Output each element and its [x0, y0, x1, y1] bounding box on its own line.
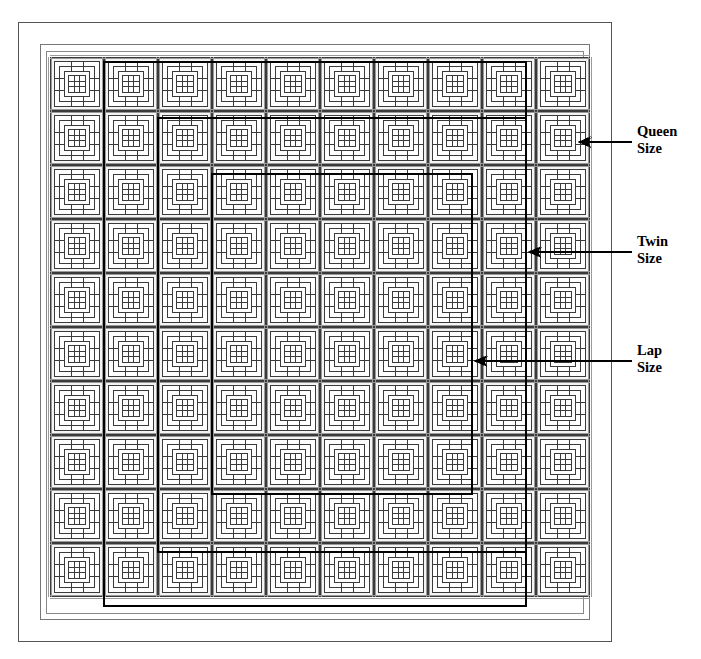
block-core	[285, 292, 302, 309]
quilt-block	[212, 489, 266, 543]
block-core	[231, 238, 248, 255]
block-core	[177, 76, 194, 93]
block-core	[447, 454, 464, 471]
quilt-block	[374, 57, 428, 111]
quilt-block	[212, 219, 266, 273]
block-core	[555, 292, 572, 309]
quilt-block	[158, 327, 212, 381]
quilt-block	[50, 543, 104, 597]
quilt-block	[482, 327, 536, 381]
quilt-block	[104, 489, 158, 543]
block-core	[339, 130, 356, 147]
block-core	[393, 454, 410, 471]
block-core	[393, 130, 410, 147]
quilt-block	[212, 381, 266, 435]
quilt-block	[320, 219, 374, 273]
block-core	[447, 130, 464, 147]
size-label-queen-line1: Queen	[637, 123, 677, 139]
block-core	[447, 184, 464, 201]
quilt-block	[104, 57, 158, 111]
quilt-block	[212, 57, 266, 111]
quilt-block	[374, 327, 428, 381]
block-core	[339, 292, 356, 309]
block-core	[501, 130, 518, 147]
block-core	[447, 238, 464, 255]
quilt-block	[266, 273, 320, 327]
quilt-block	[482, 219, 536, 273]
quilt-block	[536, 57, 590, 111]
block-core	[285, 508, 302, 525]
block-core	[231, 346, 248, 363]
quilt-block	[266, 435, 320, 489]
block-core	[339, 400, 356, 417]
block-core	[555, 454, 572, 471]
quilt-block	[50, 219, 104, 273]
quilt-block	[158, 57, 212, 111]
size-label-lap-line2: Size	[637, 359, 663, 375]
quilt-block	[104, 435, 158, 489]
block-core	[501, 76, 518, 93]
block-core	[555, 346, 572, 363]
block-core	[177, 508, 194, 525]
block-core	[285, 184, 302, 201]
block-core	[555, 76, 572, 93]
block-core	[447, 346, 464, 363]
quilt-block	[374, 489, 428, 543]
quilt-block	[50, 435, 104, 489]
quilt-block	[212, 435, 266, 489]
block-core	[555, 400, 572, 417]
quilt-block	[320, 57, 374, 111]
quilt-block	[482, 273, 536, 327]
block-core	[231, 454, 248, 471]
block-core	[231, 562, 248, 579]
block-core	[501, 562, 518, 579]
block-core	[285, 130, 302, 147]
block-core	[393, 76, 410, 93]
block-core	[123, 508, 140, 525]
block-core	[69, 454, 86, 471]
quilt-block	[374, 381, 428, 435]
quilt-block	[536, 489, 590, 543]
block-core	[555, 562, 572, 579]
block-core	[285, 238, 302, 255]
block-core	[177, 562, 194, 579]
block-core	[501, 400, 518, 417]
block-core	[123, 238, 140, 255]
block-core	[501, 454, 518, 471]
block-core	[123, 346, 140, 363]
quilt-block	[374, 219, 428, 273]
quilt-block	[50, 165, 104, 219]
quilt-block	[428, 381, 482, 435]
quilt-block	[104, 273, 158, 327]
quilt-block	[104, 111, 158, 165]
block-core	[123, 400, 140, 417]
block-core	[393, 508, 410, 525]
quilt-block	[320, 435, 374, 489]
quilt-block	[266, 219, 320, 273]
block-core	[393, 238, 410, 255]
block-core	[393, 184, 410, 201]
quilt-block	[482, 435, 536, 489]
quilt-block	[158, 273, 212, 327]
quilt-block	[158, 219, 212, 273]
block-core	[123, 292, 140, 309]
quilt-block	[428, 57, 482, 111]
block-core	[339, 346, 356, 363]
block-core	[447, 292, 464, 309]
quilt-block	[104, 543, 158, 597]
quilt-block	[536, 219, 590, 273]
block-core	[393, 400, 410, 417]
block-core	[69, 292, 86, 309]
quilt-block	[50, 489, 104, 543]
quilt-block	[320, 381, 374, 435]
quilt-block	[158, 165, 212, 219]
quilt-block	[536, 165, 590, 219]
block-core	[285, 346, 302, 363]
quilt-block	[428, 219, 482, 273]
quilt-block	[374, 435, 428, 489]
quilt-block	[266, 381, 320, 435]
quilt-block	[536, 381, 590, 435]
quilt-block	[428, 273, 482, 327]
quilt-block	[50, 57, 104, 111]
block-core	[177, 400, 194, 417]
